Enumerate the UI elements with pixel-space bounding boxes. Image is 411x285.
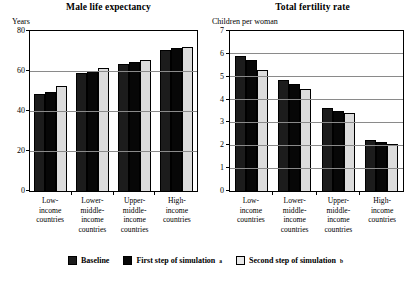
gridline [230, 53, 403, 54]
x-axis-label: Low-incomecountries [229, 196, 273, 234]
y-axis-tick [226, 167, 229, 168]
x-axis-tick [272, 191, 273, 195]
y-axis-tick [26, 30, 29, 31]
x-axis-labels: Low-incomecountriesLower-middle-incomeco… [29, 196, 198, 234]
chart-panel-male-life-expectancy: Male life expectancy Years Low-incomecou… [0, 0, 205, 250]
x-axis-label-line: countries [317, 225, 361, 235]
y-axis-tick-label: 0 [208, 186, 224, 195]
x-axis-label-line: income [156, 206, 198, 216]
legend-swatch-baseline [68, 256, 77, 265]
x-axis-label-line: High- [360, 196, 404, 206]
legend-item-second-step[interactable]: Second step of simulationb [236, 256, 343, 265]
x-axis-label: Low-incomecountries [29, 196, 71, 234]
y-axis-tick-label: 0 [1, 186, 25, 195]
x-axis-tick [113, 191, 114, 195]
x-axis-tick [316, 191, 317, 195]
x-axis-label-line: Low- [29, 196, 71, 206]
y-axis-tick [226, 76, 229, 77]
legend-item-baseline[interactable]: Baseline [68, 256, 109, 265]
bar[interactable] [322, 108, 333, 191]
bar[interactable] [344, 113, 355, 191]
legend: BaselineFirst step of simulationaSecond … [0, 256, 411, 265]
x-axis-label-line: income [114, 215, 156, 225]
y-axis-tick-label: 3 [208, 117, 224, 126]
x-axis-label: Upper-middle-incomecountries [317, 196, 361, 234]
x-axis-label-line: Upper- [317, 196, 361, 206]
y-axis-tick-label: 7 [208, 26, 224, 35]
bar[interactable] [182, 47, 193, 191]
bar[interactable] [300, 89, 311, 191]
gridline [230, 145, 403, 146]
gridline [230, 76, 403, 77]
chart-title: Male life expectancy [0, 2, 211, 12]
bar[interactable] [365, 140, 376, 191]
y-axis-tick-label: 80 [1, 26, 25, 35]
x-axis-label-line: income [71, 215, 113, 225]
bar[interactable] [45, 92, 56, 191]
chart-title: Total fertility rate [206, 2, 411, 12]
x-axis-label-line: countries [360, 215, 404, 225]
x-axis-label-line: countries [156, 215, 198, 225]
bar[interactable] [140, 60, 151, 191]
legend-item-first-step[interactable]: First step of simulationa [123, 256, 222, 265]
x-axis-tick [71, 191, 72, 195]
gridline [30, 151, 197, 152]
legend-footnote-marker: b [340, 258, 343, 264]
y-axis-tick [226, 53, 229, 54]
y-axis-tick-label: 6 [208, 48, 224, 57]
x-axis-tick [359, 191, 360, 195]
y-axis-tick-label: 2 [208, 140, 224, 149]
y-axis-tick [26, 110, 29, 111]
x-axis-label-line: income [273, 215, 317, 225]
x-axis-label-line: countries [229, 215, 273, 225]
legend-label: First step of simulation [136, 256, 215, 265]
bar[interactable] [257, 70, 268, 191]
x-axis-label-line: Low- [229, 196, 273, 206]
y-axis-tick-label: 1 [208, 163, 224, 172]
legend-swatch-first-step [123, 256, 132, 265]
y-axis-tick-label: 60 [1, 66, 25, 75]
x-axis-label-line: income [360, 206, 404, 216]
y-axis-tick [26, 70, 29, 71]
x-axis-label-line: middle- [71, 206, 113, 216]
x-axis-label-line: Upper- [114, 196, 156, 206]
y-axis-tick [26, 190, 29, 191]
bar[interactable] [34, 94, 45, 191]
x-axis-label-line: countries [71, 225, 113, 235]
legend-footnote-marker: a [219, 258, 222, 264]
y-axis-tick [226, 121, 229, 122]
x-axis-labels: Low-incomecountriesLower-middle-incomeco… [229, 196, 404, 234]
y-axis-tick [226, 144, 229, 145]
bar[interactable] [118, 64, 129, 191]
gridline [30, 111, 197, 112]
bar[interactable] [246, 60, 257, 191]
x-axis-label-line: income [317, 215, 361, 225]
legend-swatch-second-step [236, 256, 245, 265]
legend-label: Second step of simulation [249, 256, 336, 265]
bar[interactable] [76, 73, 87, 191]
plot-area [29, 30, 198, 192]
gridline [230, 168, 403, 169]
bar[interactable] [171, 48, 182, 191]
x-axis-tick [154, 191, 155, 195]
x-axis-label-line: middle- [317, 206, 361, 216]
x-axis-label: High-incomecountries [360, 196, 404, 234]
bar[interactable] [56, 86, 67, 191]
x-axis-label-line: middle- [114, 206, 156, 216]
bar[interactable] [87, 71, 98, 191]
y-axis-tick [226, 99, 229, 100]
x-axis-label: Lower-middle-incomecountries [71, 196, 113, 234]
y-axis-tick [226, 190, 229, 191]
bar[interactable] [333, 111, 344, 191]
bar[interactable] [129, 62, 140, 191]
x-axis-label: Upper-middle-incomecountries [114, 196, 156, 234]
gridline [230, 122, 403, 123]
bar[interactable] [98, 68, 109, 191]
x-axis-label-line: income [229, 206, 273, 216]
x-axis-label-line: countries [29, 215, 71, 225]
gridline [230, 99, 403, 100]
y-axis-tick-label: 4 [208, 94, 224, 103]
bar[interactable] [376, 142, 387, 191]
y-axis-tick-label: 5 [208, 71, 224, 80]
bar[interactable] [278, 80, 289, 191]
